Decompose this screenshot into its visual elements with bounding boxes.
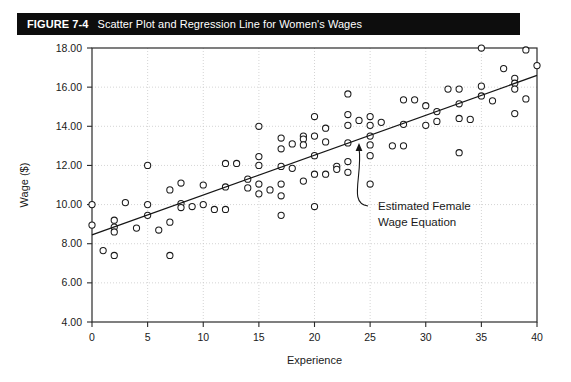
data-point-marker bbox=[367, 122, 373, 128]
data-point-marker bbox=[267, 187, 273, 193]
data-point-marker bbox=[456, 86, 462, 92]
data-point-marker bbox=[345, 91, 351, 97]
x-tick-label: 0 bbox=[89, 331, 95, 343]
data-point-marker bbox=[278, 135, 284, 141]
data-point-marker bbox=[200, 201, 206, 207]
grid-lines bbox=[92, 48, 537, 322]
data-point-marker bbox=[367, 153, 373, 159]
data-point-marker bbox=[278, 212, 284, 218]
y-axis-tick-labels: 4.006.008.0010.0012.0014.0016.0018.00 bbox=[56, 42, 82, 328]
data-point-marker bbox=[311, 203, 317, 209]
data-point-marker bbox=[256, 123, 262, 129]
y-tick-label: 12.00 bbox=[56, 159, 82, 171]
data-point-marker bbox=[345, 158, 351, 164]
data-point-marker bbox=[334, 166, 340, 172]
data-point-marker bbox=[300, 136, 306, 142]
plot-frame bbox=[92, 48, 537, 322]
y-tick-label: 10.00 bbox=[56, 198, 82, 210]
data-point-marker bbox=[467, 116, 473, 122]
figure-number-label: FIGURE 7-4 bbox=[27, 18, 89, 30]
x-tick-label: 20 bbox=[309, 331, 321, 343]
annotation-line-2: Wage Equation bbox=[378, 216, 456, 228]
data-point-marker bbox=[222, 206, 228, 212]
x-axis-tick-labels: 0510152025303540 bbox=[89, 331, 543, 343]
data-point-marker bbox=[345, 169, 351, 175]
figure-title-banner: FIGURE 7-4 Scatter Plot and Regression L… bbox=[17, 13, 520, 35]
data-point-marker bbox=[300, 178, 306, 184]
data-point-marker bbox=[367, 181, 373, 187]
data-point-marker bbox=[289, 165, 295, 171]
x-axis-title: Experience bbox=[287, 354, 342, 366]
data-point-marker bbox=[456, 115, 462, 121]
data-point-marker bbox=[389, 143, 395, 149]
figure-title-text: Scatter Plot and Regression Line for Wom… bbox=[98, 18, 362, 30]
y-tick-label: 18.00 bbox=[56, 42, 82, 54]
data-point-marker bbox=[256, 154, 262, 160]
x-tick-label: 30 bbox=[420, 331, 432, 343]
data-point-marker bbox=[89, 222, 95, 228]
axis-ticks bbox=[87, 48, 537, 327]
data-point-marker bbox=[100, 247, 106, 253]
data-point-marker bbox=[445, 86, 451, 92]
data-point-marker bbox=[311, 113, 317, 119]
data-point-marker bbox=[278, 193, 284, 199]
data-point-marker bbox=[512, 110, 518, 116]
x-tick-label: 10 bbox=[197, 331, 209, 343]
data-point-marker bbox=[189, 203, 195, 209]
data-point-marker bbox=[478, 83, 484, 89]
data-point-marker bbox=[89, 201, 95, 207]
y-tick-label: 16.00 bbox=[56, 81, 82, 93]
data-point-marker bbox=[423, 122, 429, 128]
y-tick-label: 6.00 bbox=[62, 276, 83, 288]
data-point-marker bbox=[245, 185, 251, 191]
data-point-marker bbox=[156, 227, 162, 233]
data-point-marker bbox=[378, 119, 384, 125]
data-point-marker bbox=[311, 171, 317, 177]
data-point-marker bbox=[167, 187, 173, 193]
data-points bbox=[89, 45, 540, 259]
data-point-marker bbox=[256, 162, 262, 168]
y-axis-title: Wage ($) bbox=[18, 163, 30, 208]
data-point-marker bbox=[456, 150, 462, 156]
data-point-marker bbox=[167, 252, 173, 258]
x-tick-label: 35 bbox=[476, 331, 488, 343]
data-point-marker bbox=[478, 45, 484, 51]
chart-canvas: 4.006.008.0010.0012.0014.0016.0018.00 05… bbox=[0, 36, 571, 382]
data-point-marker bbox=[323, 171, 329, 177]
data-point-marker bbox=[111, 229, 117, 235]
annotation-leader-line bbox=[357, 148, 368, 206]
data-point-marker bbox=[300, 142, 306, 148]
data-point-marker bbox=[222, 160, 228, 166]
data-point-marker bbox=[323, 139, 329, 145]
x-tick-label: 25 bbox=[364, 331, 376, 343]
data-point-marker bbox=[234, 160, 240, 166]
data-point-marker bbox=[200, 182, 206, 188]
y-tick-label: 4.00 bbox=[62, 316, 83, 328]
data-point-marker bbox=[512, 86, 518, 92]
annotation-arrowhead bbox=[356, 143, 363, 151]
x-tick-label: 5 bbox=[145, 331, 151, 343]
data-point-marker bbox=[256, 191, 262, 197]
data-point-marker bbox=[167, 219, 173, 225]
data-point-marker bbox=[434, 118, 440, 124]
data-point-marker bbox=[345, 122, 351, 128]
data-point-marker bbox=[256, 181, 262, 187]
data-point-marker bbox=[501, 65, 507, 71]
scatter-plot-svg: 4.006.008.0010.0012.0014.0016.0018.00 05… bbox=[0, 36, 571, 382]
data-point-marker bbox=[534, 63, 540, 69]
data-point-marker bbox=[289, 141, 295, 147]
data-point-marker bbox=[122, 200, 128, 206]
data-point-marker bbox=[178, 204, 184, 210]
data-point-marker bbox=[523, 96, 529, 102]
annotation-line-1: Estimated Female bbox=[378, 200, 471, 212]
figure-container: FIGURE 7-4 Scatter Plot and Regression L… bbox=[0, 0, 571, 382]
data-point-marker bbox=[145, 201, 151, 207]
data-point-marker bbox=[145, 162, 151, 168]
x-tick-label: 40 bbox=[531, 331, 543, 343]
y-tick-label: 14.00 bbox=[56, 120, 82, 132]
data-point-marker bbox=[412, 97, 418, 103]
data-point-marker bbox=[367, 142, 373, 148]
plot-border bbox=[92, 48, 537, 322]
data-point-marker bbox=[356, 117, 362, 123]
y-tick-label: 8.00 bbox=[62, 237, 83, 249]
